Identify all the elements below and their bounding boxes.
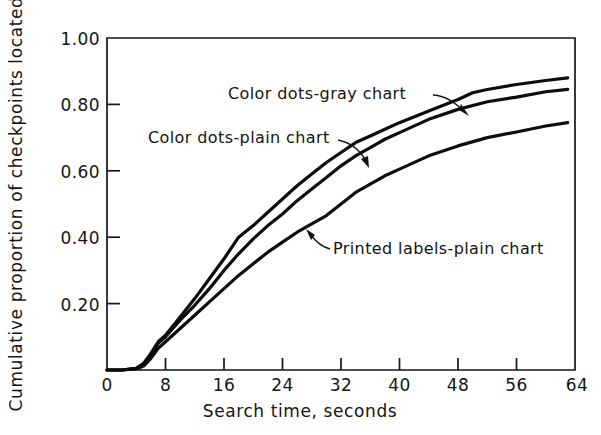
- data-series-group: [107, 78, 568, 370]
- x-tick-labels: 0 8 16 24 32 40 48 56 64: [101, 375, 588, 395]
- y-tick-labels: 1.00 0.80 0.60 0.40 0.20: [61, 29, 100, 315]
- annotation-label-printed-labels: Printed labels-plain chart: [333, 239, 544, 258]
- y-axis-title: Cumulative proportion of checkpoints loc…: [6, 0, 26, 411]
- y-tick-label-1-00: 1.00: [61, 29, 100, 49]
- x-axis-title: Search time, seconds: [203, 401, 398, 421]
- annotation-label-plain-chart: Color dots-plain chart: [148, 128, 330, 147]
- annotation-printed-labels-plain-chart: Printed labels-plain chart: [306, 229, 544, 258]
- x-tick-label-48: 48: [447, 375, 469, 395]
- y-tick-label-0-80: 0.80: [61, 95, 100, 115]
- line-chart: 1.00 0.80 0.60 0.40 0.20 0 8 16 24 32 40…: [0, 0, 601, 435]
- x-tick-label-16: 16: [213, 375, 235, 395]
- y-tick-label-0-60: 0.60: [61, 162, 100, 182]
- x-tick-label-40: 40: [388, 375, 410, 395]
- x-tick-label-64: 64: [566, 375, 588, 395]
- y-tick-label-0-20: 0.20: [61, 295, 100, 315]
- figure-container: 1.00 0.80 0.60 0.40 0.20 0 8 16 24 32 40…: [0, 0, 601, 435]
- x-axis-ticks: [166, 358, 517, 370]
- x-tick-label-0: 0: [101, 375, 112, 395]
- x-tick-label-24: 24: [271, 375, 293, 395]
- y-axis-ticks: [107, 104, 120, 303]
- annotation-color-dots-gray-chart: Color dots-gray chart: [228, 84, 469, 116]
- x-tick-label-8: 8: [160, 375, 171, 395]
- x-tick-label-56: 56: [505, 375, 527, 395]
- x-tick-label-32: 32: [330, 375, 352, 395]
- annotation-color-dots-plain-chart: Color dots-plain chart: [148, 128, 369, 168]
- y-tick-label-0-40: 0.40: [61, 228, 100, 248]
- annotation-label-gray-chart: Color dots-gray chart: [228, 84, 406, 103]
